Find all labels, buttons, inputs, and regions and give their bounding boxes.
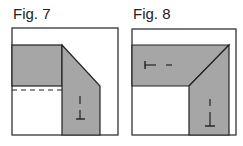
diagrams — [0, 0, 243, 146]
fig7-diagram — [12, 28, 118, 135]
fig8-diagram — [132, 29, 236, 135]
